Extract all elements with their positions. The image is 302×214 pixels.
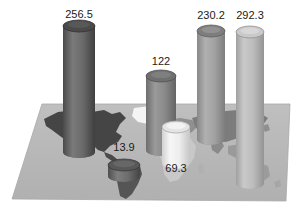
chart-3d-cylinder-world-map: 256.5 13.9 122 69.3 230.2 292.3 [0, 0, 302, 214]
data-label-africa: 69.3 [157, 163, 195, 174]
cylinder-top-highlight [202, 27, 221, 34]
cylinder-top-highlight [241, 28, 260, 35]
data-label-south-america: 13.9 [105, 142, 143, 153]
cylinder-top-highlight [151, 72, 171, 79]
data-label-north-america: 256.5 [58, 9, 100, 20]
cylinder-top-highlight [167, 123, 186, 130]
chart-canvas [0, 0, 302, 214]
cylinder-north-america[interactable] [63, 20, 95, 158]
cylinder-oceania[interactable] [236, 26, 264, 189]
data-label-europe: 122 [144, 56, 178, 67]
cylinder-south-america[interactable] [108, 159, 140, 182]
cylinder-top-highlight [68, 21, 90, 28]
cylinder-asia[interactable] [197, 25, 225, 145]
cylinder-body [197, 31, 225, 145]
cylinder-body [63, 26, 95, 158]
data-label-oceania: 292.3 [229, 10, 271, 21]
cylinder-body [236, 32, 264, 189]
data-label-asia: 230.2 [190, 10, 232, 21]
cylinder-top-highlight [113, 160, 135, 167]
